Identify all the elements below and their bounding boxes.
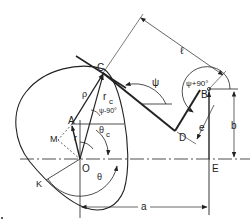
label-e-point: E <box>212 163 219 174</box>
label-r-c-sub: c <box>109 97 113 106</box>
label-o: O <box>82 163 90 174</box>
label-b-dim: b <box>231 120 237 131</box>
follower-arm-db <box>175 90 200 131</box>
label-a-dim: a <box>141 201 147 212</box>
dot-mark <box>1 217 3 219</box>
follower-arm-cd <box>103 73 175 131</box>
label-c: C <box>97 62 104 73</box>
label-psi: ψ <box>152 77 159 88</box>
label-e: e <box>199 122 205 133</box>
label-ell: ℓ <box>180 45 184 56</box>
r-angle-arc <box>80 142 93 149</box>
label-k: K <box>36 179 42 189</box>
ell-extension-1 <box>103 14 143 73</box>
label-rho: ρ <box>82 89 87 99</box>
cam-profile <box>16 66 128 210</box>
label-d: D <box>179 132 186 143</box>
label-m: M <box>50 134 58 144</box>
rho-line <box>72 74 103 124</box>
label-theta-c: θ <box>99 125 104 135</box>
r-c-line <box>80 75 103 159</box>
ok-line <box>46 159 80 180</box>
label-theta-c-sub: c <box>106 130 110 139</box>
label-theta: θ <box>97 172 102 182</box>
label-b-point: B <box>201 89 208 100</box>
psi-arc <box>126 84 166 104</box>
label-r-c: r <box>103 91 107 102</box>
ell-extension-2 <box>209 71 226 89</box>
m-construction-1 <box>58 124 72 140</box>
cam-mechanism-diagram: C ρ r c ψ-90° A θ c M r O θ K ψ ψ+90° B … <box>0 0 252 224</box>
label-a: A <box>68 115 75 126</box>
label-r: r <box>74 133 77 143</box>
label-psi-minus-90: ψ-90° <box>99 107 117 115</box>
label-psi-plus-90: ψ+90° <box>186 79 208 88</box>
